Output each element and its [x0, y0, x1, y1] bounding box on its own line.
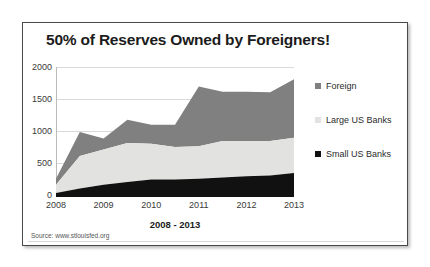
- legend-swatch-small-us-banks: [315, 151, 321, 157]
- legend-label-large-us-banks: Large US Banks: [326, 115, 392, 125]
- y-tick-1500: 1500: [20, 95, 52, 104]
- legend-label-foreign: Foreign: [326, 81, 357, 91]
- y-tick-2000: 2000: [20, 63, 52, 72]
- plot-area: [56, 67, 294, 197]
- y-tick-1000: 1000: [20, 127, 52, 136]
- x-tick-2011: 2011: [189, 200, 208, 210]
- legend-label-small-us-banks: Small US Banks: [326, 149, 391, 159]
- source-note: Source: www.stlouisfed.org: [31, 232, 109, 239]
- x-tick-2009: 2009: [94, 200, 114, 210]
- x-tick-2010: 2010: [141, 200, 161, 210]
- x-tick-2012: 2012: [236, 200, 256, 210]
- stacked-area-chart: [56, 67, 294, 197]
- legend-item-small-us-banks[interactable]: Small US Banks: [315, 149, 407, 159]
- legend-item-foreign[interactable]: Foreign: [315, 81, 407, 91]
- legend-swatch-large-us-banks: [315, 117, 321, 123]
- chart-title: 50% of Reserves Owned by Foreigners!: [23, 31, 353, 49]
- legend-item-large-us-banks[interactable]: Large US Banks: [315, 115, 407, 125]
- x-tick-2013: 2013: [284, 200, 304, 210]
- y-tick-0: 0: [20, 191, 52, 200]
- chart-card: 50% of Reserves Owned by Foreigners! 200…: [22, 22, 408, 246]
- y-tick-500: 500: [20, 159, 52, 168]
- x-tick-2008: 2008: [46, 200, 66, 210]
- x-axis: 2008 2009 2010 2011 2012 2013: [56, 200, 294, 214]
- chart-legend: Foreign Large US Banks Small US Banks: [315, 81, 407, 183]
- y-axis: 2000 1500 1000 500 0: [21, 63, 52, 203]
- x-axis-title: 2008 - 2013: [56, 219, 294, 230]
- source-divider: [28, 241, 404, 242]
- legend-swatch-foreign: [315, 83, 321, 89]
